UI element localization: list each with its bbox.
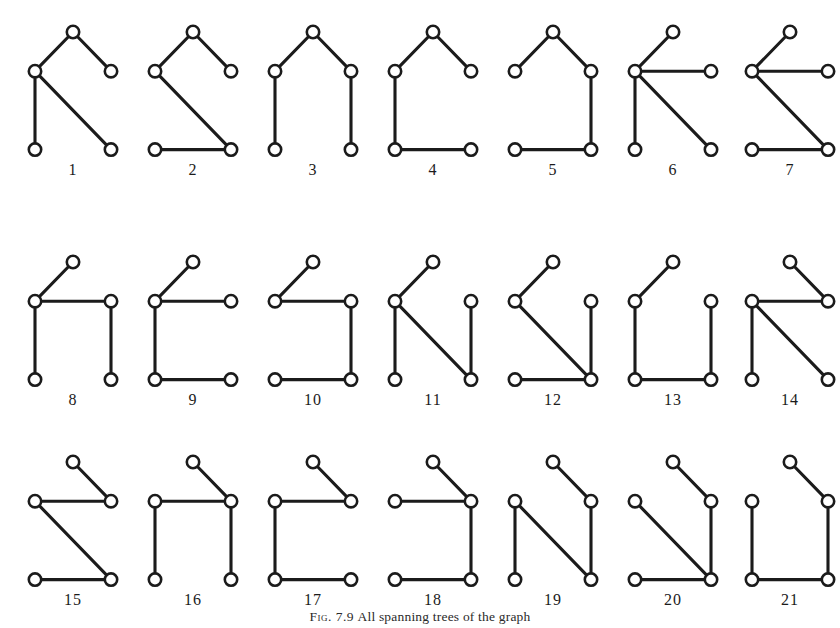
tree-node (105, 295, 117, 307)
tree-edge (155, 32, 193, 71)
tree-figure: 20 (629, 456, 717, 608)
tree-node (269, 373, 281, 385)
tree-node (225, 295, 237, 307)
tree-figure: 18 (389, 456, 477, 608)
tree-node (105, 373, 117, 385)
tree-edge (275, 32, 313, 71)
tree-node (585, 373, 597, 385)
tree-node (29, 65, 41, 77)
tree-node (187, 26, 199, 38)
tree-node (705, 295, 717, 307)
tree-node (345, 65, 357, 77)
tree-node (427, 256, 439, 268)
tree-node (225, 143, 237, 155)
figure-number-label: 8 (69, 391, 78, 408)
tree-edge (193, 32, 231, 71)
tree-node (509, 373, 521, 385)
tree-figure: 4 (389, 26, 477, 178)
tree-node (667, 256, 679, 268)
tree-node (465, 65, 477, 77)
tree-node (187, 256, 199, 268)
figure-number-label: 3 (309, 161, 318, 178)
tree-node (307, 256, 319, 268)
tree-node (29, 373, 41, 385)
tree-edge (515, 262, 553, 301)
tree-node (784, 26, 796, 38)
tree-node (105, 495, 117, 507)
tree-node (822, 495, 834, 507)
tree-edge (35, 71, 111, 149)
tree-figure: 11 (389, 256, 477, 408)
tree-edge (752, 71, 828, 149)
tree-node (746, 295, 758, 307)
tree-node (389, 143, 401, 155)
tree-figure: 2 (149, 26, 237, 178)
figure-number-label: 4 (429, 161, 438, 178)
figure-number-label: 6 (669, 161, 678, 178)
tree-figure: 12 (509, 256, 597, 408)
tree-node (427, 26, 439, 38)
tree-edge (73, 462, 111, 501)
tree-node (629, 373, 641, 385)
tree-node (389, 573, 401, 585)
tree-figure: 16 (149, 456, 237, 608)
tree-edge (515, 32, 553, 71)
tree-node (465, 573, 477, 585)
tree-node (269, 295, 281, 307)
tree-node (822, 143, 834, 155)
tree-node (389, 495, 401, 507)
tree-node (585, 65, 597, 77)
tree-edge (35, 262, 73, 301)
tree-figure: 10 (269, 256, 357, 408)
tree-node (822, 373, 834, 385)
tree-figure: 14 (746, 256, 834, 408)
tree-node (822, 573, 834, 585)
tree-node (67, 456, 79, 468)
tree-node (509, 143, 521, 155)
tree-figure: 8 (29, 256, 117, 408)
tree-node (345, 573, 357, 585)
tree-diagram-svg: 123456789101112131415161718192021 (0, 0, 840, 628)
tree-edge (275, 262, 313, 301)
tree-edge (752, 32, 790, 71)
tree-node (225, 65, 237, 77)
figure-number-label: 2 (189, 161, 198, 178)
tree-edge (673, 462, 711, 501)
tree-edge (155, 262, 193, 301)
tree-figure: 15 (29, 456, 117, 608)
tree-edge (433, 32, 471, 71)
tree-edge (635, 71, 711, 149)
tree-node (269, 143, 281, 155)
tree-node (225, 573, 237, 585)
tree-node (784, 456, 796, 468)
tree-edge (752, 301, 828, 379)
tree-edge (395, 32, 433, 71)
tree-node (509, 573, 521, 585)
figure-number-label: 14 (781, 391, 799, 408)
tree-node (149, 373, 161, 385)
tree-node (746, 143, 758, 155)
tree-node (149, 573, 161, 585)
tree-edge (790, 462, 828, 501)
tree-node (705, 495, 717, 507)
tree-node (629, 495, 641, 507)
tree-edge (313, 462, 351, 501)
tree-node (746, 495, 758, 507)
tree-node (389, 373, 401, 385)
tree-figure: 13 (629, 256, 717, 408)
tree-figure: 17 (269, 456, 357, 608)
tree-edge (193, 462, 231, 501)
tree-edge (515, 301, 591, 379)
tree-node (149, 295, 161, 307)
tree-node (746, 373, 758, 385)
tree-node (465, 495, 477, 507)
tree-node (705, 573, 717, 585)
tree-node (784, 256, 796, 268)
tree-node (547, 26, 559, 38)
tree-node (29, 573, 41, 585)
tree-node (509, 495, 521, 507)
tree-node (629, 65, 641, 77)
tree-node (345, 495, 357, 507)
tree-node (345, 373, 357, 385)
caption-tag: Fig. 7.9 (309, 609, 354, 624)
